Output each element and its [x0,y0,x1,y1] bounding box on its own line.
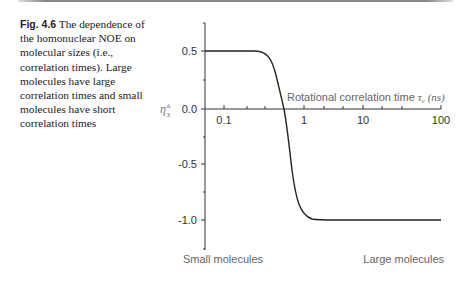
noe-chart: 0.5 0.0 -0.5 -1.0 ηAX 0.1 1 10 100 Rotat… [0,0,469,290]
ytick-neg-0.5: -0.5 [178,158,197,170]
ytick-0.0: 0.0 [182,103,197,115]
ytick-0.5: 0.5 [182,45,197,57]
large-molecules-label: Large molecules [363,253,444,265]
noe-curve [205,51,441,220]
xtick-0.1: 0.1 [216,114,231,126]
x-axis-label: Rotational correlation time τc (ns) [287,91,445,105]
ytick-neg-1.0: -1.0 [178,214,197,226]
xtick-1: 1 [301,114,307,126]
small-molecules-label: Small molecules [183,253,264,265]
xtick-10: 10 [357,114,369,126]
xtick-100: 100 [432,114,450,126]
y-axis-label: ηAX [160,102,171,119]
